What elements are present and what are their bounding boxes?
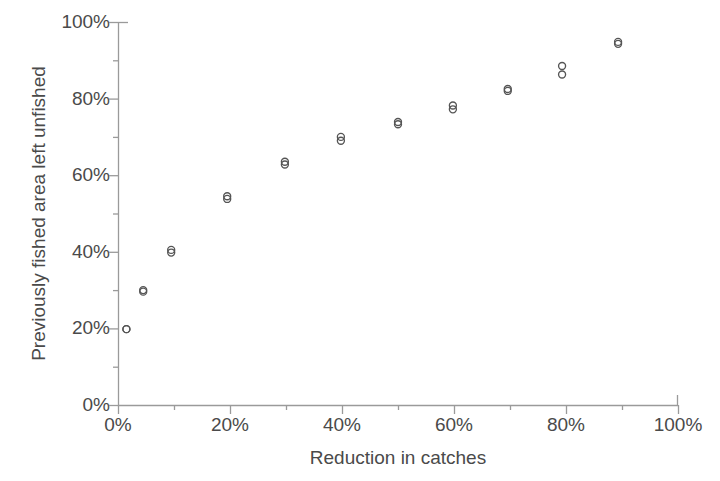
data-point bbox=[123, 326, 130, 333]
chart-figure: Previously fished area left unfished 0%2… bbox=[0, 0, 720, 481]
series-series-2 bbox=[123, 40, 622, 332]
axis-spines bbox=[118, 22, 678, 406]
data-point bbox=[559, 71, 566, 78]
axis-ticks bbox=[109, 23, 679, 415]
data-point-markers bbox=[123, 38, 622, 332]
plot-area bbox=[0, 0, 720, 481]
series-series-1 bbox=[123, 38, 622, 332]
data-point bbox=[559, 63, 566, 70]
